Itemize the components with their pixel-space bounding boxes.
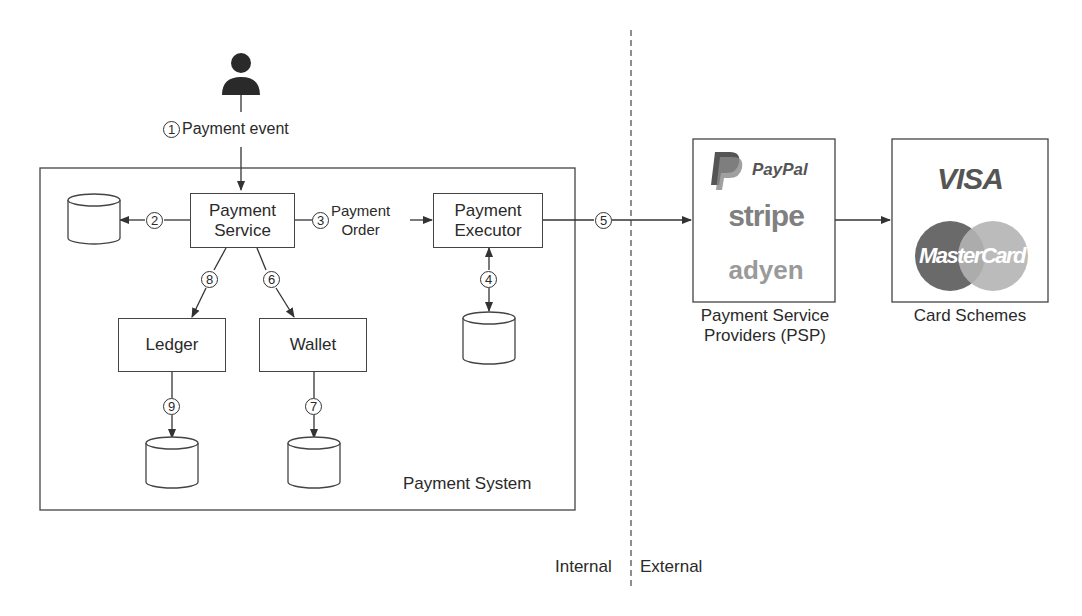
payment-service-line2: Service xyxy=(214,221,271,241)
card-schemes-caption: Card Schemes xyxy=(892,306,1048,326)
visa-logo: VISA xyxy=(920,162,1020,196)
adyen-logo: adyen xyxy=(716,255,816,286)
step-5-marker: 5 xyxy=(595,212,612,229)
psp-caption-line1: Payment Service xyxy=(680,306,850,326)
user-icon xyxy=(222,53,260,95)
wallet-box[interactable]: Wallet xyxy=(259,318,367,372)
step-6-marker: 6 xyxy=(263,271,280,288)
step-1-label: Payment event xyxy=(182,120,289,138)
payment-executor-line2: Executor xyxy=(454,221,521,241)
internal-label: Internal xyxy=(555,557,612,577)
step-8-marker: 8 xyxy=(201,271,218,288)
psp-caption-line2: Providers (PSP) xyxy=(680,326,850,346)
ledger-box[interactable]: Ledger xyxy=(118,318,226,372)
step-2-marker: 2 xyxy=(146,212,163,229)
mastercard-logo: MasterCard xyxy=(910,243,1034,269)
psp-caption: Payment Service Providers (PSP) xyxy=(680,306,850,346)
step-3-marker: 3 xyxy=(312,212,329,229)
step-3-label: Payment Order xyxy=(331,201,390,239)
database-icon xyxy=(68,194,120,244)
step-3-label-line1: Payment xyxy=(331,201,390,220)
external-label: External xyxy=(640,557,702,577)
paypal-logo: PayPal xyxy=(752,160,808,180)
payment-executor-box[interactable]: Payment Executor xyxy=(433,193,543,248)
database-icon xyxy=(288,437,340,488)
payment-system-label: Payment System xyxy=(403,474,532,494)
database-icon xyxy=(146,437,198,488)
step-1-marker: 1 xyxy=(163,121,180,138)
step-7-marker: 7 xyxy=(305,398,322,415)
payment-executor-line1: Payment xyxy=(454,201,521,221)
step-4-marker: 4 xyxy=(480,271,497,288)
database-icon xyxy=(463,312,515,364)
payment-service-box[interactable]: Payment Service xyxy=(190,193,295,248)
stripe-logo: stripe xyxy=(716,199,816,233)
step-3-label-line2: Order xyxy=(331,220,390,239)
payment-service-line1: Payment xyxy=(209,201,276,221)
step-9-marker: 9 xyxy=(163,398,180,415)
